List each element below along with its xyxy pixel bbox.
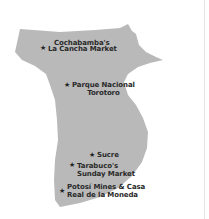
place-label-line: Parque Nacional [72, 81, 135, 89]
place-label-potosi: Potosí Mines & Casa Real de la Moneda [67, 183, 145, 199]
star-icon: ★ [89, 151, 95, 159]
place-label-tarabuco: Tarabuco's Sunday Market [77, 162, 135, 178]
star-icon: ★ [59, 187, 65, 195]
place-label-line: Real de la Moneda [67, 191, 145, 199]
place-label-torotoro: Parque Nacional Torotoro [72, 81, 135, 97]
star-icon: ★ [40, 44, 46, 52]
place-label-line: Sucre [97, 151, 119, 159]
place-label-cochabamba-2: La Cancha Market [48, 45, 117, 53]
page-divider [204, 0, 205, 219]
place-label-line: Sunday Market [77, 170, 135, 178]
star-icon: ★ [69, 161, 75, 169]
place-label-line: La Cancha Market [48, 45, 117, 53]
star-icon: ★ [64, 81, 70, 89]
place-label-line: Potosí Mines & Casa [67, 183, 145, 191]
place-label-line: Torotoro [72, 89, 135, 97]
place-label-sucre: Sucre [97, 151, 119, 159]
place-label-line: Tarabuco's [77, 162, 135, 170]
